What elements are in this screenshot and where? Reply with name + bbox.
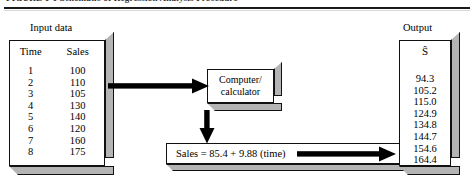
cell-sales: 160 <box>51 135 104 147</box>
output-value: 124.9 <box>400 108 450 120</box>
caption-rule <box>4 7 470 9</box>
output-value: 144.7 <box>400 131 450 143</box>
cell-time: 7 <box>10 135 51 147</box>
output-box-side-face <box>451 32 460 158</box>
processor-line-2: calculator <box>208 86 273 98</box>
output-value: 115.0 <box>400 96 450 108</box>
output-value: 105.2 <box>400 85 450 97</box>
processor-line-1: Computer/ <box>208 74 273 86</box>
output-value: 134.8 <box>400 119 450 131</box>
output-gap <box>400 57 450 73</box>
figure-caption-clip: FIGURE 1-1 Schematic of Regression Analy… <box>0 0 474 6</box>
table-row: 3 105 <box>10 88 104 100</box>
cell-time: 2 <box>10 77 51 89</box>
input-box-side-face <box>105 32 114 158</box>
processor-box-front-face: Computer/ calculator <box>207 69 274 103</box>
output-values-list: Ŝ 94.3 105.2 115.0 124.9 134.8 144.7 154… <box>400 41 450 166</box>
cell-sales: 100 <box>51 65 104 77</box>
cell-time: 5 <box>10 111 51 123</box>
processor-box: Computer/ calculator <box>207 69 274 103</box>
processor-box-bottom-face <box>207 103 282 111</box>
cell-sales: 175 <box>51 146 104 158</box>
output-box: Ŝ 94.3 105.2 115.0 124.9 134.8 144.7 154… <box>399 40 451 166</box>
table-row: 6 120 <box>10 123 104 135</box>
table-row: 2 110 <box>10 77 104 89</box>
figure-container: FIGURE 1-1 Schematic of Regression Analy… <box>0 0 474 190</box>
output-label: Output <box>403 22 432 33</box>
table-row: 8 175 <box>10 146 104 158</box>
table-row: 4 130 <box>10 100 104 112</box>
cell-time: 6 <box>10 123 51 135</box>
processor-box-side-face <box>274 62 282 96</box>
arrow-right-icon-equation-to-output <box>297 146 399 162</box>
table-header-row: Time Sales <box>10 41 104 59</box>
output-value: 154.6 <box>400 143 450 155</box>
output-value: 164.4 <box>400 154 450 166</box>
column-header-sales: Sales <box>51 41 104 59</box>
cell-time: 4 <box>10 100 51 112</box>
cell-sales: 140 <box>51 111 104 123</box>
input-data-box: Time Sales 1 100 2 110 3 <box>9 40 105 166</box>
input-box-front-face: Time Sales 1 100 2 110 3 <box>9 40 105 166</box>
arrow-down-icon-processor-to-equation <box>199 110 215 144</box>
cell-sales: 105 <box>51 88 104 100</box>
input-data-label: Input data <box>30 22 72 33</box>
equation-box-bottom-face <box>166 164 412 171</box>
cell-time: 3 <box>10 88 51 100</box>
output-value: 94.3 <box>400 73 450 85</box>
column-header-time: Time <box>10 41 51 59</box>
input-data-table: Time Sales 1 100 2 110 3 <box>10 41 104 158</box>
table-row: 7 160 <box>10 135 104 147</box>
cell-sales: 130 <box>51 100 104 112</box>
figure-caption: FIGURE 1-1 Schematic of Regression Analy… <box>6 0 238 3</box>
output-box-bottom-face <box>399 166 460 175</box>
output-box-front-face: Ŝ 94.3 105.2 115.0 124.9 134.8 144.7 154… <box>399 40 451 166</box>
cell-sales: 120 <box>51 123 104 135</box>
input-box-bottom-face <box>9 166 114 175</box>
cell-time: 8 <box>10 146 51 158</box>
processor-text: Computer/ calculator <box>208 70 273 98</box>
caption-rule-secondary <box>4 10 470 11</box>
cell-sales: 110 <box>51 77 104 89</box>
output-column-header: Ŝ <box>400 41 450 57</box>
cell-time: 1 <box>10 65 51 77</box>
table-row: 1 100 <box>10 65 104 77</box>
arrow-right-icon-input-to-processor <box>108 78 210 94</box>
table-row: 5 140 <box>10 111 104 123</box>
